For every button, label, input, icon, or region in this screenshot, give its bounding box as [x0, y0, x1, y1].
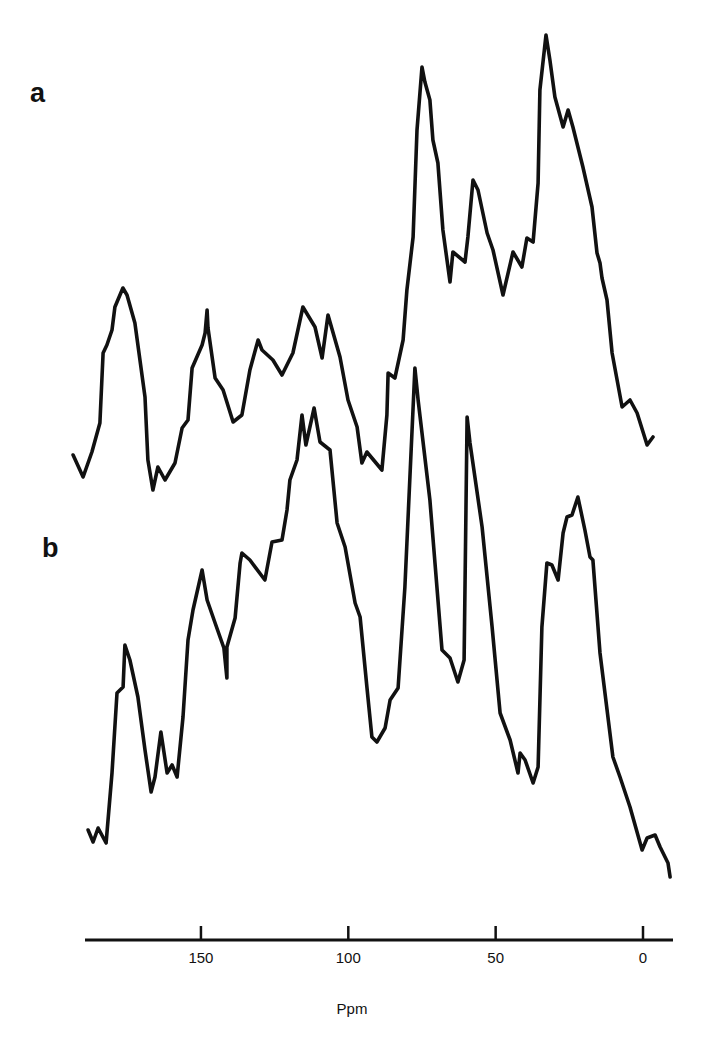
spectrum-trace-b	[88, 368, 670, 877]
panel-label-b: b	[42, 535, 59, 562]
x-tick-label-150: 150	[188, 949, 213, 966]
x-tick-label-0: 0	[639, 949, 647, 966]
panel-label-a: a	[30, 80, 45, 107]
x-tick-label-100: 100	[336, 949, 361, 966]
spectrum-trace-a	[73, 35, 653, 490]
x-tick-label-50: 50	[487, 949, 504, 966]
x-axis-label: Ppm	[337, 1000, 368, 1017]
spectra-plot-area	[0, 0, 708, 1050]
x-axis-ticks	[201, 926, 643, 940]
nmr-spectra-figure: a b 150 100 50 0 Ppm	[0, 0, 708, 1050]
